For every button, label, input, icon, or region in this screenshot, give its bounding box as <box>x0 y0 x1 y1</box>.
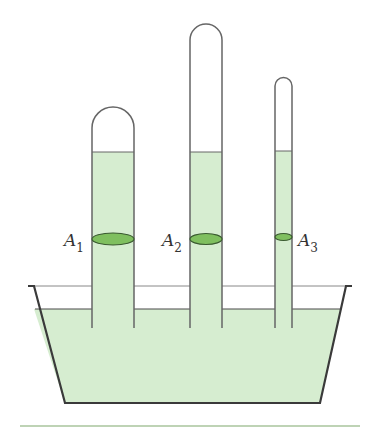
cross-section-a1 <box>92 233 134 245</box>
tube-2 <box>190 24 222 328</box>
cross-section-a2 <box>190 234 222 245</box>
label-a1: A1 <box>62 230 84 255</box>
trough-liquid <box>34 309 341 403</box>
cross-section-a3 <box>275 234 292 241</box>
tube-1 <box>92 107 134 328</box>
label-a2: A2 <box>160 230 182 255</box>
tubes-in-trough-diagram: A1 A2 A3 <box>0 0 374 431</box>
label-a3: A3 <box>296 230 318 255</box>
tube-3 <box>275 78 292 329</box>
